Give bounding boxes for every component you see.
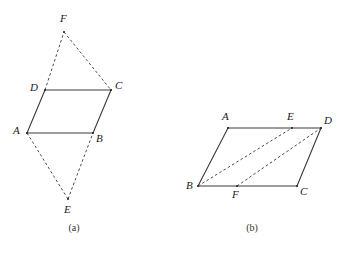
vertex-point-f (63, 31, 65, 33)
vertex-label-e: E (286, 110, 294, 122)
vertex-label-f: F (231, 188, 239, 200)
vertex-label-d: D (29, 81, 38, 93)
vertex-label-c: C (300, 185, 308, 197)
vertex-point-b (92, 132, 94, 134)
edge-DF-dashed (45, 32, 64, 90)
edge-AE-dashed (27, 133, 68, 199)
vertex-point-e (291, 127, 293, 129)
vertex-point-c (296, 185, 298, 187)
edge-BC-solid (93, 90, 111, 133)
vertex-point-a (227, 127, 229, 129)
vertex-label-a: A (12, 124, 20, 136)
vertex-label-e: E (63, 203, 71, 215)
panel-a: ABCDEF(a) (12, 12, 123, 234)
vertex-point-d (44, 89, 46, 91)
vertex-point-c (110, 89, 112, 91)
panels-layer: ABCDEF(a)ABCDEF(b) (12, 12, 332, 234)
edge-FD-dashed (237, 128, 321, 186)
figure-canvas: ABCDEF(a)ABCDEF(b) (0, 0, 344, 254)
geometry-figure: ABCDEF(a)ABCDEF(b) (0, 0, 344, 254)
vertex-point-b (197, 185, 199, 187)
panel-caption: (a) (68, 222, 79, 234)
edge-DA-solid (27, 90, 45, 133)
edge-FC-dashed (64, 32, 111, 90)
panel-b: ABCDEF(b) (186, 110, 332, 234)
vertex-label-a: A (221, 110, 229, 122)
edge-BE-dashed (198, 128, 292, 186)
vertex-label-c: C (115, 79, 123, 91)
vertex-label-d: D (323, 114, 332, 126)
edge-EB-dashed (68, 133, 93, 199)
vertex-label-b: B (186, 179, 193, 191)
vertex-point-e (67, 198, 69, 200)
vertex-label-f: F (59, 12, 67, 24)
vertex-point-d (320, 127, 322, 129)
panel-caption: (b) (246, 222, 258, 234)
vertex-point-f (236, 185, 238, 187)
vertex-point-a (26, 132, 28, 134)
vertex-label-b: B (96, 132, 103, 144)
